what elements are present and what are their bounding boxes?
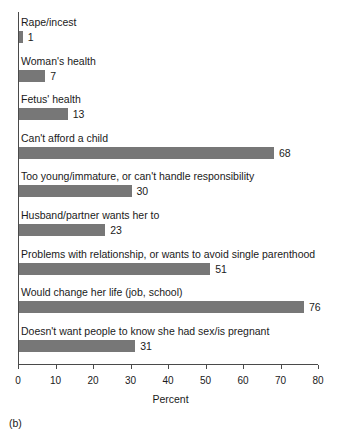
bar-category-label: Problems with relationship, or wants to … (21, 248, 315, 260)
x-axis-tick (318, 365, 319, 369)
bar-rect (19, 185, 132, 197)
x-axis-tick-label: 10 (50, 375, 61, 386)
bar-value-label: 7 (50, 70, 56, 82)
bar-value-label: 31 (140, 340, 152, 352)
x-axis-tick-label: 60 (237, 375, 248, 386)
bar-rect (19, 70, 45, 82)
x-axis-tick (131, 365, 132, 369)
bar-category-label: Would change her life (job, school) (21, 286, 182, 298)
bar-category-label: Can't afford a child (21, 132, 108, 144)
bar-category-label: Doesn't want people to know she had sex/… (21, 325, 269, 337)
bar-value-label: 30 (137, 185, 149, 197)
x-axis-title-text: Percent (152, 393, 188, 405)
x-axis-tick-label: 30 (125, 375, 136, 386)
bar-category-label: Husband/partner wants her to (21, 209, 159, 221)
bar-value-label: 68 (279, 147, 291, 159)
figure-caption: (b) (9, 417, 22, 429)
x-axis-tick (243, 365, 244, 369)
x-axis-tick-label: 0 (15, 375, 21, 386)
plot-area: 01020304050607080 Rape/incest1Woman's he… (18, 12, 318, 365)
x-axis-tick-label: 40 (162, 375, 173, 386)
bar-category-label: Woman's health (21, 55, 96, 67)
bar-rect (19, 31, 23, 43)
x-axis-tick-label: 70 (275, 375, 286, 386)
bar-rect (19, 263, 210, 275)
x-axis-tick (168, 365, 169, 369)
bar-category-label: Rape/incest (21, 16, 76, 28)
bar-value-label: 51 (215, 263, 227, 275)
bar-category-label: Too young/immature, or can't handle resp… (21, 170, 254, 182)
x-axis-tick (93, 365, 94, 369)
bar-value-label: 23 (110, 224, 122, 236)
x-axis-tick (56, 365, 57, 369)
x-axis-title: Percent (0, 393, 337, 405)
bar-rect (19, 340, 135, 352)
bar-category-label: Fetus' health (21, 93, 81, 105)
bar-rect (19, 147, 274, 159)
x-axis-tick-label: 80 (312, 375, 323, 386)
x-axis-tick (18, 365, 19, 369)
bar-rect (19, 301, 304, 313)
bar-value-label: 1 (28, 31, 34, 43)
x-axis-tick (206, 365, 207, 369)
x-axis-tick-label: 20 (87, 375, 98, 386)
x-axis-tick-label: 50 (200, 375, 211, 386)
bar-rect (19, 108, 68, 120)
bar-value-label: 13 (73, 108, 85, 120)
bar-value-label: 76 (309, 301, 321, 313)
bar-rect (19, 224, 105, 236)
bar-chart-figure: 01020304050607080 Rape/incest1Woman's he… (0, 0, 337, 438)
x-axis-tick (281, 365, 282, 369)
